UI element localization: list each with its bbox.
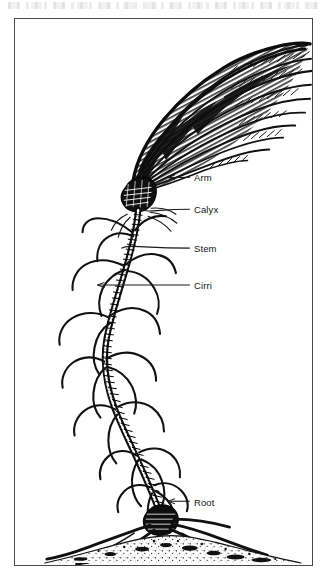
label-arm: Arm [194,173,212,183]
figure-frame: Arm Calyx Stem Cirri Root [14,18,313,566]
figure-page: Arm Calyx Stem Cirri Root [0,0,328,577]
label-calyx: Calyx [194,205,218,215]
label-root: Root [194,498,214,508]
label-cirri: Cirri [194,281,212,291]
label-stem: Stem [194,244,217,254]
leader-line-calyx [142,209,190,211]
scan-artifact-strip [8,2,320,9]
crinoid-illustration [15,19,312,565]
